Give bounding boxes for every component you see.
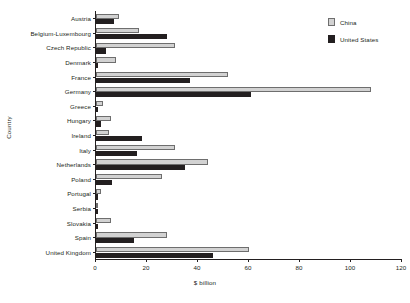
bar-row: France bbox=[95, 69, 401, 84]
bar-china bbox=[96, 57, 116, 62]
bar-usa bbox=[96, 194, 99, 199]
bar-china bbox=[96, 203, 99, 208]
bar-usa bbox=[96, 34, 167, 39]
category-label: Italy bbox=[79, 146, 91, 153]
y-axis-tick bbox=[93, 120, 95, 121]
bar-row: Poland bbox=[95, 171, 401, 186]
x-axis-tick-label: 100 bbox=[345, 264, 355, 271]
category-label: Hungary bbox=[67, 117, 91, 124]
bar-row: Denmark bbox=[95, 55, 401, 70]
category-label: Serbia bbox=[73, 204, 92, 211]
y-axis-tick bbox=[93, 91, 95, 92]
bar-china bbox=[96, 43, 175, 48]
bar-china bbox=[96, 87, 371, 92]
bar-china bbox=[96, 145, 175, 150]
y-axis-tick bbox=[93, 106, 95, 107]
legend-label-china: China bbox=[340, 19, 357, 26]
bar-usa bbox=[96, 136, 142, 141]
bar-usa bbox=[96, 224, 99, 229]
category-label: Ireland bbox=[71, 131, 91, 138]
x-axis-tick-label: 60 bbox=[245, 264, 252, 271]
x-axis-tick bbox=[95, 259, 96, 262]
category-label: Czech Republic bbox=[46, 44, 91, 51]
legend-item-china: China bbox=[328, 18, 378, 26]
x-axis-title: $ billion bbox=[0, 279, 410, 286]
bar-row: Italy bbox=[95, 142, 401, 157]
x-axis-tick bbox=[146, 259, 147, 262]
bar-chart: Country AustriaBelgium-LuxembourgCzech R… bbox=[0, 0, 410, 303]
bar-china bbox=[96, 116, 111, 121]
category-label: Spain bbox=[75, 234, 91, 241]
category-label: Belgium-Luxembourg bbox=[30, 29, 91, 36]
category-label: Germany bbox=[65, 88, 91, 95]
x-axis-tick-label: 20 bbox=[143, 264, 150, 271]
bar-china bbox=[96, 247, 249, 252]
legend-label-united-states: United States bbox=[340, 36, 378, 43]
category-label: Slovakia bbox=[67, 219, 91, 226]
bar-china bbox=[96, 174, 162, 179]
bar-china bbox=[96, 130, 109, 135]
x-axis-tick-label: 120 bbox=[396, 264, 406, 271]
bar-usa bbox=[96, 238, 134, 243]
bar-china bbox=[96, 189, 101, 194]
bar-china bbox=[96, 159, 208, 164]
category-label: Poland bbox=[71, 175, 91, 182]
bar-china bbox=[96, 101, 104, 106]
y-axis-tick bbox=[93, 164, 95, 165]
x-axis-tick bbox=[299, 259, 300, 262]
bar-row: Greece bbox=[95, 99, 401, 114]
bar-row: Netherlands bbox=[95, 157, 401, 172]
x-axis-tick bbox=[350, 259, 351, 262]
bar-row: Germany bbox=[95, 84, 401, 99]
x-axis-tick-label: 0 bbox=[93, 264, 96, 271]
bar-usa bbox=[96, 19, 114, 24]
legend-item-united-states: United States bbox=[328, 35, 378, 43]
category-label: Portugal bbox=[67, 190, 91, 197]
y-axis-tick bbox=[93, 150, 95, 151]
y-axis-tick bbox=[93, 62, 95, 63]
legend-swatch-china-icon bbox=[328, 18, 335, 25]
bar-china bbox=[96, 28, 139, 33]
chart-legend: China United States bbox=[328, 18, 378, 52]
bar-china bbox=[96, 232, 167, 237]
y-axis-title: Country bbox=[5, 98, 12, 158]
bar-row: Spain bbox=[95, 230, 401, 245]
y-axis-tick bbox=[93, 208, 95, 209]
y-axis-tick bbox=[93, 179, 95, 180]
x-axis-tick bbox=[197, 259, 198, 262]
bar-usa bbox=[96, 48, 106, 53]
y-axis-tick bbox=[93, 18, 95, 19]
y-axis-tick bbox=[93, 47, 95, 48]
bar-usa bbox=[96, 63, 99, 68]
y-axis-tick bbox=[93, 223, 95, 224]
y-axis-tick bbox=[93, 193, 95, 194]
category-label: Greece bbox=[70, 102, 91, 109]
bar-usa bbox=[96, 78, 190, 83]
bar-usa bbox=[96, 121, 101, 126]
bar-china bbox=[96, 72, 229, 77]
bar-usa bbox=[96, 107, 99, 112]
x-axis-tick bbox=[401, 259, 402, 262]
bar-row: Slovakia bbox=[95, 215, 401, 230]
category-label: Netherlands bbox=[57, 161, 91, 168]
category-label: France bbox=[71, 73, 91, 80]
y-axis-tick bbox=[93, 77, 95, 78]
bar-usa bbox=[96, 151, 137, 156]
bar-usa bbox=[96, 92, 252, 97]
bar-row: Hungary bbox=[95, 113, 401, 128]
category-label: Austria bbox=[71, 15, 91, 22]
legend-swatch-united-states-icon bbox=[328, 35, 335, 42]
category-label: Denmark bbox=[65, 59, 91, 66]
x-axis-tick-label: 40 bbox=[194, 264, 201, 271]
y-axis-tick bbox=[93, 237, 95, 238]
bar-usa bbox=[96, 180, 113, 185]
bar-row: United Kingdom bbox=[95, 244, 401, 259]
bar-china bbox=[96, 14, 119, 19]
bar-usa bbox=[96, 253, 213, 258]
y-axis-tick bbox=[93, 135, 95, 136]
bar-usa bbox=[96, 165, 185, 170]
bar-row: Portugal bbox=[95, 186, 401, 201]
category-label: United Kingdom bbox=[46, 248, 91, 255]
x-axis-tick bbox=[248, 259, 249, 262]
bar-china bbox=[96, 218, 111, 223]
